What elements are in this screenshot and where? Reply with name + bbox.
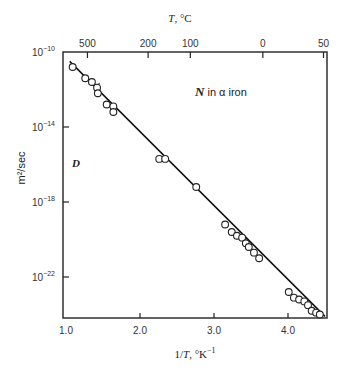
data-point [316, 311, 323, 318]
data-point [103, 101, 110, 108]
top-axis-title: T, °C [168, 12, 191, 24]
top-axis-ticks: 500200100050 [79, 38, 329, 58]
x-tick-label: 3.0 [207, 325, 221, 336]
y-tick-label: 10−18 [32, 195, 55, 208]
top-tick-label: 50 [318, 38, 330, 49]
x-tick-label: 4.0 [281, 325, 295, 336]
top-tick-label: 100 [182, 38, 199, 49]
y-tick-label: 10−10 [32, 45, 55, 58]
bottom-axis-title: 1/T, °K−1 [174, 346, 215, 360]
data-point [251, 249, 258, 256]
y-axis-title: m²/sec [15, 151, 27, 185]
data-point [285, 289, 292, 296]
y-tick-label: 10−14 [32, 120, 55, 133]
y-tick-label: 10−22 [32, 270, 55, 283]
chart-canvas: 10−1010−1410−1810−22 1.02.03.04.0 500200… [0, 0, 342, 373]
data-points [69, 64, 323, 318]
x-tick-label: 2.0 [133, 325, 147, 336]
x-tick-label: 1.0 [59, 325, 73, 336]
data-point [110, 109, 117, 116]
data-point [162, 155, 169, 162]
top-tick-label: 200 [140, 38, 157, 49]
data-point [222, 221, 229, 228]
data-point [82, 75, 89, 82]
data-point [94, 90, 101, 97]
data-point [193, 184, 200, 191]
data-point [245, 244, 252, 251]
data-point [69, 64, 76, 71]
d-label: D [71, 157, 80, 169]
annotation-n-in-alpha-iron: N in α iron [194, 84, 247, 99]
x-axis-ticks: 1.02.03.04.0 [59, 313, 295, 336]
top-tick-label: 500 [79, 38, 96, 49]
data-point [256, 255, 263, 262]
top-tick-label: 0 [260, 38, 266, 49]
